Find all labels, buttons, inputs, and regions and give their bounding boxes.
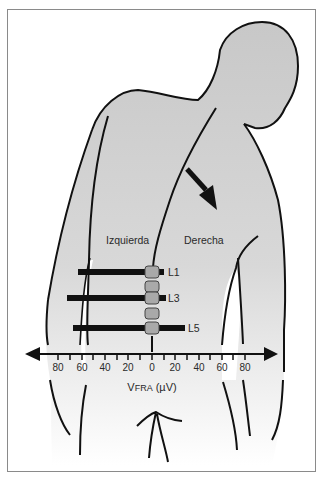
tick-right-80: 80 — [239, 362, 250, 373]
tick-right-20: 20 — [169, 362, 180, 373]
axis-title-sub: FRA — [135, 383, 153, 393]
tick-zero: 0 — [149, 362, 155, 373]
vertebra-l1 — [145, 266, 159, 278]
label-l1: L1 — [168, 266, 180, 278]
arrow-left-icon — [25, 347, 40, 361]
tick-left-60: 60 — [76, 362, 87, 373]
tick-left-80: 80 — [52, 362, 63, 373]
axis-title-unit: (µV) — [153, 381, 177, 393]
tick-left-40: 40 — [99, 362, 110, 373]
label-l3: L3 — [168, 292, 180, 304]
tick-right-40: 40 — [193, 362, 204, 373]
vertebrae — [145, 266, 159, 334]
body-silhouette — [46, 22, 298, 465]
vertebra-l3 — [145, 292, 159, 304]
axis-title: VFRA (µV) — [127, 381, 176, 393]
torso-diagram — [0, 0, 321, 483]
vertebra-l2 — [145, 281, 159, 292]
label-right-side: Derecha — [184, 234, 224, 246]
vertebra-l4 — [145, 308, 159, 319]
tick-right-60: 60 — [216, 362, 227, 373]
bar-l5 — [73, 325, 185, 331]
label-left-side: Izquierda — [106, 234, 149, 246]
label-l5: L5 — [188, 322, 200, 334]
vertebra-l5 — [145, 322, 159, 334]
tick-left-20: 20 — [122, 362, 133, 373]
